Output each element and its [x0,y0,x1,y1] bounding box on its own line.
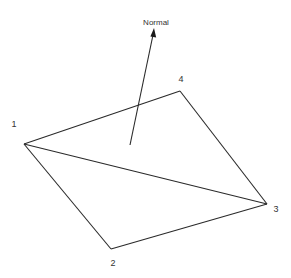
vertex-label-3: 3 [273,204,278,214]
diagonal-1-3 [24,144,267,204]
element-normal-diagram: Normal 1 2 3 4 [0,0,291,278]
edge-2-1 [24,144,111,249]
edge-1-4 [24,91,180,144]
vertex-label-4: 4 [178,74,183,84]
vertex-label-2: 2 [110,258,115,268]
edge-4-3 [180,91,267,204]
normal-label: Normal [143,18,169,27]
vertex-label-1: 1 [11,119,16,129]
edge-3-2 [111,204,267,249]
normal-vector-line [130,34,153,145]
normal-arrowhead-icon [150,28,156,38]
